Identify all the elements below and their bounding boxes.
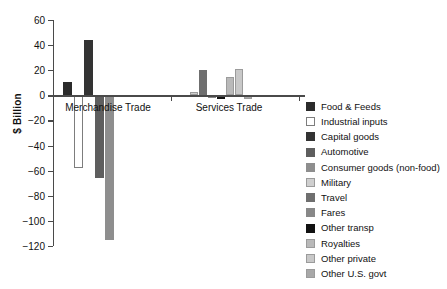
y-tick-label: 40 [34,40,45,51]
legend-item-label: Consumer goods (non-food) [321,163,440,173]
x-tick-mark [299,95,300,101]
legend-swatch-icon [306,163,315,172]
legend-swatch-icon [306,208,315,217]
y-tick-label: 0 [39,90,45,101]
legend-swatch-icon [306,269,315,278]
y-tick-label: −80 [28,190,45,201]
y-tick-label: −100 [22,215,45,226]
legend-item-label: Royalties [321,239,360,249]
legend-swatch-icon [306,178,315,187]
y-tick-mark [48,196,53,197]
y-tick-mark [48,120,53,121]
bar [84,40,93,95]
y-tick-mark [48,45,53,46]
legend-item[interactable]: Military [306,175,446,190]
legend-item-label: Industrial inputs [321,117,388,127]
bar [235,69,243,95]
legend-swatch-icon [306,102,315,111]
zero-baseline [53,95,305,96]
legend-item-label: Military [321,178,351,188]
legend-swatch-icon [306,224,315,233]
legend-item[interactable]: Other U.S. govt [306,266,446,281]
legend-swatch-icon [306,254,315,263]
y-tick-label: −20 [28,115,45,126]
legend-swatch-icon [306,148,315,157]
bar-chart: $ Billion 6040200−20−40−60−80−100−120 Me… [0,0,447,289]
y-tick-label: −40 [28,140,45,151]
y-tick-label: −120 [22,241,45,252]
legend-item-label: Travel [321,193,347,203]
group-label-services: Services Trade [196,102,263,113]
bar [63,82,72,96]
y-tick-mark [48,70,53,71]
legend-item[interactable]: Food & Feeds [306,99,446,114]
legend-item-label: Other transp [321,223,374,233]
legend-swatch-icon [306,117,315,126]
legend-item[interactable]: Travel [306,190,446,205]
legend-item-label: Automotive [321,147,369,157]
legend-item-label: Capital goods [321,132,379,142]
group-label-merchandise: Merchandise Trade [65,102,151,113]
y-tick-mark [48,171,53,172]
legend-item-label: Other private [321,254,376,264]
bar [105,95,114,239]
y-tick-mark [48,246,53,247]
legend-item[interactable]: Other private [306,251,446,266]
legend-swatch-icon [306,193,315,202]
y-tick-label: 20 [34,65,45,76]
legend-item-label: Other U.S. govt [321,269,386,279]
y-axis-line [53,20,54,246]
legend-item[interactable]: Automotive [306,145,446,160]
legend-item[interactable]: Other transp [306,221,446,236]
y-tick-mark [48,221,53,222]
legend-item[interactable]: Capital goods [306,129,446,144]
plot-area: 6040200−20−40−60−80−100−120 Merchandise … [53,20,299,246]
y-axis-title: $ Billion [12,69,23,159]
y-tick-label: −60 [28,165,45,176]
legend-item-label: Fares [321,208,345,218]
y-tick-mark [48,146,53,147]
bar [199,70,207,95]
legend-item[interactable]: Consumer goods (non-food) [306,160,446,175]
legend: Food & FeedsIndustrial inputsCapital goo… [306,99,446,281]
legend-item[interactable]: Industrial inputs [306,114,446,129]
x-tick-mark [171,95,172,101]
legend-item-label: Food & Feeds [321,102,381,112]
y-tick-label: 60 [34,15,45,26]
legend-item[interactable]: Royalties [306,236,446,251]
legend-swatch-icon [306,132,315,141]
legend-swatch-icon [306,239,315,248]
legend-item[interactable]: Fares [306,205,446,220]
y-tick-mark [48,20,53,21]
bar [226,77,234,96]
